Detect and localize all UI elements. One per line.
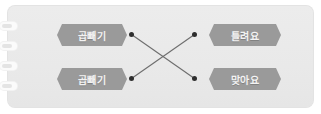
connector-dot-right-top[interactable] <box>192 32 197 37</box>
binding-ring-icon <box>0 82 17 90</box>
connector-dot-left-bottom[interactable] <box>129 76 134 81</box>
card-surface <box>8 6 313 107</box>
connector-dot-left-top[interactable] <box>129 32 134 37</box>
match-option-label: 곱빼기 <box>78 28 106 43</box>
screenshot-root: 곱빼기 곱빼기 틀려요 맞아요 <box>0 0 321 114</box>
spiral-binding <box>0 20 22 96</box>
match-option-label: 틀려요 <box>231 28 259 43</box>
match-option-right-bottom[interactable]: 맞아요 <box>209 68 281 90</box>
match-option-label: 맞아요 <box>231 72 259 87</box>
match-option-right-top[interactable]: 틀려요 <box>209 24 281 46</box>
match-option-left-bottom[interactable]: 곱빼기 <box>57 68 127 90</box>
connector-dot-right-bottom[interactable] <box>192 76 197 81</box>
match-option-label: 곱빼기 <box>78 72 106 87</box>
match-option-left-top[interactable]: 곱빼기 <box>57 24 127 46</box>
binding-ring-icon <box>0 22 17 30</box>
binding-ring-icon <box>0 62 17 70</box>
notebook-card <box>8 6 313 107</box>
binding-ring-icon <box>0 42 17 50</box>
